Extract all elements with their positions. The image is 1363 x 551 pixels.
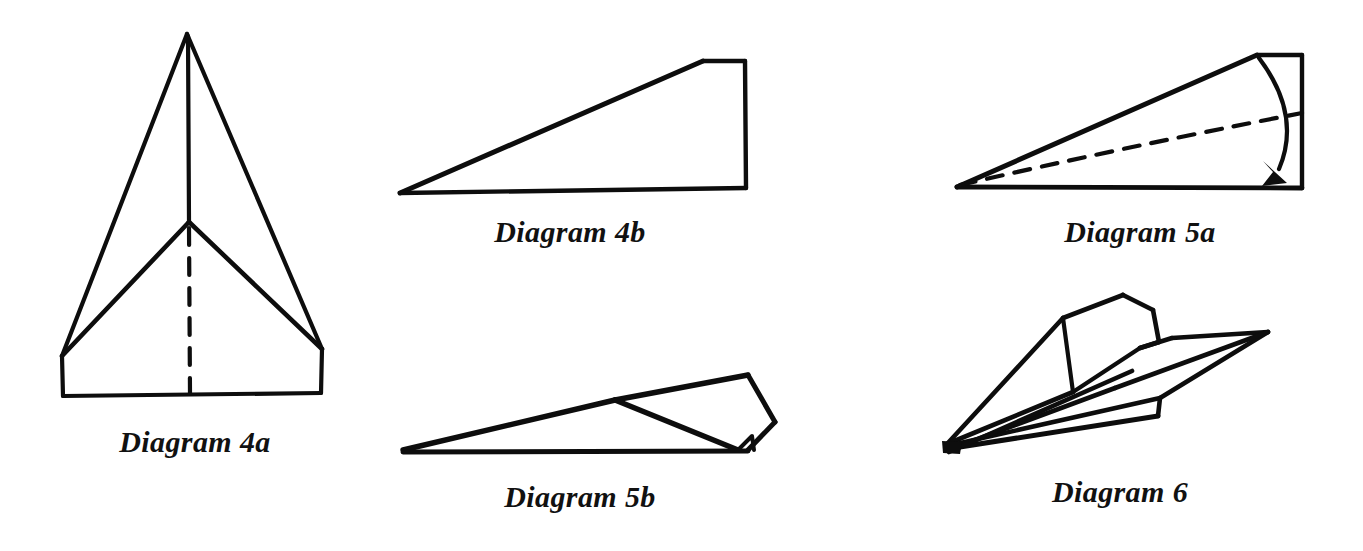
center-fold-line (188, 36, 189, 222)
panel-diagram-4b: Diagram 4b (370, 20, 770, 270)
inner-fold-right (189, 222, 322, 349)
wedge-base-edge (400, 188, 746, 193)
caption-diagram-5b: Diagram 5b (380, 480, 780, 514)
flap-hinge-crease (615, 400, 738, 450)
base-left-edge (62, 356, 63, 396)
caption-diagram-5a: Diagram 5a (930, 215, 1350, 249)
fold-motion-arc (1259, 58, 1287, 169)
fold-arrow-head (1262, 161, 1287, 186)
wedge-right-edge (745, 61, 746, 188)
side-view-long-wedge (370, 20, 770, 210)
fin-right-edge (1153, 310, 1159, 342)
front-view-folded-paper-triangle (0, 0, 390, 420)
fin-apex-edge (1123, 295, 1153, 310)
wedge-hypotenuse (400, 61, 703, 193)
wedge-base-edge (957, 187, 1302, 188)
panel-diagram-5b: Diagram 5b (380, 350, 780, 540)
side-view-wing-folded-down (380, 350, 780, 475)
panel-diagram-6: Diagram 6 (910, 270, 1330, 540)
base-right-edge (321, 349, 322, 393)
flap-top-edge (615, 375, 748, 400)
side-view-wedge-with-fold-arrow (930, 20, 1350, 210)
wedge-base-edge (403, 451, 748, 452)
wing-root-edge (1140, 338, 1172, 348)
body-top-ridge (947, 392, 1073, 444)
diagram-sheet: Diagram 4a Diagram 4b (0, 0, 1363, 551)
dashed-fold-line (960, 113, 1302, 185)
caption-diagram-6: Diagram 6 (910, 475, 1330, 509)
fin-center-fold (1063, 318, 1073, 392)
flap-right-edge (748, 375, 775, 422)
fin-top-left-edge (1063, 295, 1123, 318)
inner-fold-left (62, 222, 189, 356)
nose-tip (942, 441, 962, 454)
panel-diagram-4a: Diagram 4a (0, 0, 390, 480)
outer-right-edge (187, 34, 322, 349)
wedge-hypotenuse (957, 55, 1257, 187)
outer-left-edge (62, 34, 187, 356)
wedge-top-front-edge (403, 400, 615, 450)
panel-diagram-5a: Diagram 5a (930, 20, 1350, 270)
dashed-center-crease (189, 228, 190, 394)
caption-diagram-4a: Diagram 4a (0, 425, 390, 459)
finished-paper-airplane-perspective (910, 270, 1330, 470)
caption-diagram-4b: Diagram 4b (370, 215, 770, 249)
